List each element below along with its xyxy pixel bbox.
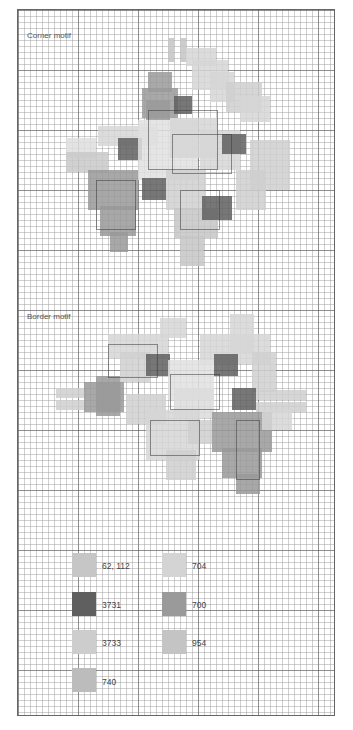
thread-code-label: 700: [192, 600, 206, 610]
stitch-block: [262, 410, 292, 430]
color-swatch: [72, 553, 96, 577]
corner-motif-title: Corner motif: [27, 31, 71, 40]
color-swatch: [162, 592, 186, 616]
color-swatch: [72, 592, 96, 616]
stitch-block: [142, 178, 166, 200]
thread-code-label: 62, 112: [102, 561, 130, 571]
stitch-block: [236, 474, 260, 494]
stitch-block: [146, 354, 170, 376]
border-motif-title: Border motif: [27, 312, 71, 321]
color-swatch: [162, 630, 186, 654]
thread-code-label: 740: [102, 677, 116, 687]
color-swatch: [72, 630, 96, 654]
stitch-block: [202, 196, 232, 220]
stitch-block: [214, 354, 238, 376]
stitch-block: [240, 96, 270, 122]
stitch-block: [56, 388, 86, 398]
stitch-block: [88, 170, 138, 210]
stitch-block: [252, 352, 276, 392]
thread-code-label: 704: [192, 561, 206, 571]
stitch-block: [166, 450, 196, 480]
stitch-block: [236, 170, 266, 210]
stitch-block: [188, 420, 212, 444]
stitch-block: [66, 152, 108, 172]
stitch-block: [232, 388, 256, 410]
thread-code-label: 954: [192, 638, 206, 648]
color-swatch: [72, 668, 96, 692]
stitch-block: [174, 96, 192, 114]
thread-code-label: 3733: [102, 638, 121, 648]
color-swatch: [162, 553, 186, 577]
thread-code-label: 3731: [102, 600, 121, 610]
stitch-block: [168, 38, 174, 62]
stitch-block: [222, 134, 246, 154]
stitch-block: [180, 236, 204, 266]
stitch-block: [146, 100, 170, 120]
stitch-block: [96, 376, 120, 416]
stitch-block: [166, 170, 206, 210]
stitch-block: [110, 232, 128, 252]
stitch-block: [256, 390, 306, 400]
stitch-block: [56, 400, 86, 410]
